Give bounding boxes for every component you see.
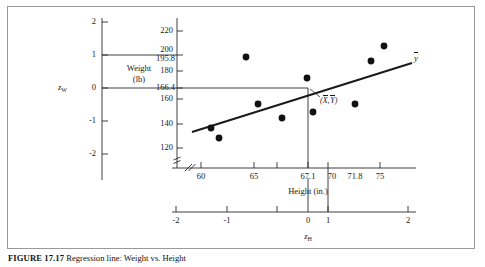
figure-caption: FIGURE 17.17 Regression line: Weight vs.…	[8, 253, 186, 263]
data-point	[381, 43, 388, 50]
weight-tick-220: 220	[145, 25, 173, 35]
figure-container: 2 1 0 -1 -2 zW Weight (lb) 220 200 195.8…	[0, 0, 485, 267]
zw-tick-2: 2	[78, 16, 96, 26]
data-point	[216, 135, 223, 142]
height-tick-70: 70	[322, 171, 342, 181]
weight-tick-120: 120	[145, 142, 173, 152]
height-axis-label: Height (in.)	[268, 186, 348, 196]
zw-tick-m2: -2	[74, 148, 96, 158]
weight-tick-195-8: 195.8	[141, 53, 175, 63]
data-point	[279, 115, 286, 122]
weight-tick-160: 160	[145, 93, 173, 103]
zh-tick-2: 2	[398, 215, 418, 225]
regression-line-label: y	[414, 53, 418, 63]
height-tick-67-1: 67.1	[294, 171, 322, 181]
height-tick-60: 60	[191, 171, 211, 181]
figure-graphic	[0, 0, 485, 267]
data-point	[310, 109, 317, 116]
data-point	[352, 101, 359, 108]
zw-tick-m1: -1	[74, 115, 96, 125]
figure-caption-number: FIGURE 17.17	[8, 253, 64, 263]
zh-axis-label: zH	[288, 231, 328, 242]
weight-tick-166-4: 166.4	[141, 82, 175, 92]
data-point	[243, 54, 250, 61]
zh-tick-0: 0	[298, 215, 318, 225]
zh-tick-m2: -2	[166, 215, 186, 225]
data-point	[304, 75, 311, 82]
weight-tick-140: 140	[145, 118, 173, 128]
data-point	[255, 101, 262, 108]
zh-tick-1: 1	[318, 215, 338, 225]
data-point	[208, 125, 215, 132]
weight-tick-180: 180	[145, 65, 173, 75]
height-tick-65: 65	[244, 171, 264, 181]
height-tick-71-8: 71.8	[341, 171, 369, 181]
figure-caption-text: Regression line: Weight vs. Height	[66, 253, 186, 263]
regression-line	[192, 63, 412, 132]
zw-axis-label: zW	[58, 82, 67, 93]
data-point	[368, 58, 375, 65]
mean-point-label: (X, Y)	[320, 96, 337, 105]
zw-tick-0: 0	[78, 82, 96, 92]
zh-tick-m1: -1	[217, 215, 237, 225]
scatter-points	[208, 43, 388, 142]
height-tick-75: 75	[370, 171, 390, 181]
zw-tick-1: 1	[78, 49, 96, 59]
